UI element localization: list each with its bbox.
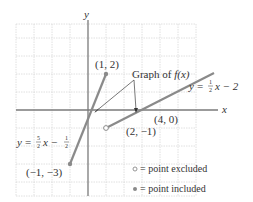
svg-text:x −: x −	[42, 136, 58, 148]
y-axis-label: y	[83, 8, 89, 20]
legend-excluded-icon	[133, 167, 137, 171]
piecewise-graph: y x (1, 2) (−1, −3) (2, −1) (4, 0) Graph…	[0, 0, 253, 202]
x-axis-label: x	[221, 103, 227, 115]
label-point-4-0: (4, 0)	[154, 113, 178, 126]
legend-included-icon	[133, 187, 137, 191]
svg-text:2: 2	[37, 143, 40, 149]
equation-2: y = 1 2 x − 2	[188, 79, 239, 93]
label-point-2-neg1: (2, −1)	[126, 125, 156, 138]
svg-text:=: =	[25, 136, 31, 148]
label-point-1-2: (1, 2)	[95, 58, 119, 71]
svg-text:5: 5	[37, 135, 40, 141]
svg-text:x − 2: x − 2	[214, 80, 239, 92]
svg-text:y: y	[188, 80, 194, 92]
svg-text:2: 2	[209, 87, 212, 93]
legend-excluded-label: = point excluded	[140, 163, 207, 174]
equation-1: y = 5 2 x − 1 2	[16, 135, 69, 149]
svg-text:y: y	[16, 136, 22, 148]
label-point-neg1-neg3: (−1, −3)	[26, 166, 63, 179]
svg-text:1: 1	[65, 135, 68, 141]
point-included-icon	[104, 72, 108, 76]
svg-text:1: 1	[209, 79, 212, 85]
svg-text:2: 2	[65, 143, 68, 149]
legend-included-label: = point included	[140, 183, 206, 194]
point-included-icon	[68, 162, 72, 166]
point-excluded-icon	[104, 126, 109, 131]
svg-text:=: =	[197, 80, 203, 92]
graph-of-f-label: Graph of f(x)	[132, 68, 190, 81]
